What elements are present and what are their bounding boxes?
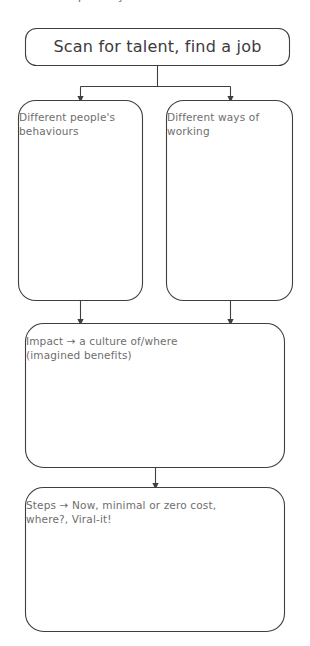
steps-node-shape[interactable] <box>26 488 285 632</box>
branch-node-shape-1[interactable] <box>167 101 293 301</box>
flowchart-diagram: partially cut-off text Scan for talent, … <box>0 0 310 646</box>
flowchart-shapes-layer <box>0 0 310 646</box>
impact-node-shape[interactable] <box>26 324 285 468</box>
branch-node-shape-0[interactable] <box>19 101 143 301</box>
title-node-shape[interactable] <box>26 29 290 66</box>
